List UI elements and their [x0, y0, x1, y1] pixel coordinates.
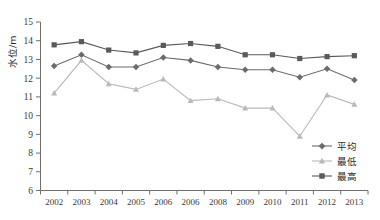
- y-axis-ticks: 6789101112131415: [24, 17, 41, 196]
- data-point-marker: [79, 39, 84, 44]
- data-point-marker: [215, 44, 220, 49]
- y-tick-label: 15: [24, 17, 34, 27]
- data-point-marker: [242, 66, 249, 73]
- chart-legend: 平均最低最高: [312, 141, 357, 182]
- x-axis-tick-labels: 2002200320042005200620062008200920102011…: [45, 197, 364, 207]
- x-tick-label: 2005: [127, 197, 146, 207]
- y-tick-label: 9: [28, 130, 33, 140]
- legend-item-3[interactable]: 最高: [312, 171, 357, 182]
- data-point-marker: [106, 47, 111, 52]
- x-tick-label: 2008: [209, 197, 228, 207]
- data-point-marker: [52, 42, 57, 47]
- x-tick-label: 2006: [154, 197, 173, 207]
- y-tick-label: 10: [24, 111, 34, 121]
- series-layer: [51, 39, 358, 139]
- y-tick-label: 13: [24, 55, 34, 65]
- legend-label: 最高: [337, 171, 357, 182]
- x-tick-label: 2012: [318, 197, 336, 207]
- legend-label: 平均: [337, 141, 357, 152]
- x-tick-label: 2009: [236, 197, 255, 207]
- data-point-marker: [351, 77, 358, 84]
- data-point-marker: [160, 54, 167, 61]
- y-tick-label: 6: [28, 186, 33, 196]
- x-tick-label: 2006: [182, 197, 201, 207]
- data-point-marker: [324, 54, 329, 59]
- y-tick-label: 12: [24, 74, 34, 84]
- chart-canvas: 水位/m 6789101112131415 200220032004200520…: [0, 0, 380, 220]
- y-tick-label: 7: [28, 167, 33, 177]
- data-point-marker: [324, 92, 330, 98]
- series-3: [52, 39, 357, 61]
- x-axis-ticks: [41, 191, 369, 195]
- series-2: [51, 57, 357, 138]
- legend-item-1[interactable]: 平均: [312, 141, 357, 152]
- data-point-marker: [297, 56, 302, 61]
- series-line: [54, 42, 354, 59]
- data-point-marker: [269, 66, 276, 73]
- series-1: [51, 52, 358, 84]
- x-tick-label: 2002: [45, 197, 63, 207]
- x-tick-label: 2013: [345, 197, 364, 207]
- data-point-marker: [133, 50, 138, 55]
- legend-marker-icon: [319, 143, 326, 150]
- data-point-marker: [78, 52, 85, 59]
- water-level-line-chart: 水位/m 6789101112131415 200220032004200520…: [0, 0, 380, 220]
- legend-label: 最低: [337, 156, 357, 167]
- y-tick-label: 11: [24, 92, 33, 102]
- y-axis-title: 水位/m: [7, 36, 18, 68]
- data-point-marker: [352, 53, 357, 58]
- data-point-marker: [160, 76, 166, 82]
- legend-item-2[interactable]: 最低: [312, 156, 357, 167]
- y-tick-label: 8: [28, 148, 33, 158]
- data-point-marker: [297, 74, 304, 81]
- x-tick-label: 2011: [291, 197, 309, 207]
- legend-marker-icon: [319, 173, 324, 178]
- data-point-marker: [51, 63, 58, 70]
- data-point-marker: [78, 57, 84, 63]
- data-point-marker: [243, 52, 248, 57]
- x-tick-label: 2010: [263, 197, 282, 207]
- data-point-marker: [133, 64, 140, 71]
- data-point-marker: [324, 66, 331, 73]
- data-point-marker: [215, 64, 222, 71]
- series-line: [54, 60, 354, 136]
- data-point-marker: [270, 52, 275, 57]
- y-tick-label: 14: [24, 36, 34, 46]
- x-tick-label: 2004: [100, 197, 119, 207]
- data-point-marker: [161, 43, 166, 48]
- data-point-marker: [105, 64, 112, 71]
- x-tick-label: 2003: [72, 197, 91, 207]
- data-point-marker: [187, 57, 194, 64]
- y-axis-title-label: 水位/m: [7, 36, 18, 68]
- data-point-marker: [188, 41, 193, 46]
